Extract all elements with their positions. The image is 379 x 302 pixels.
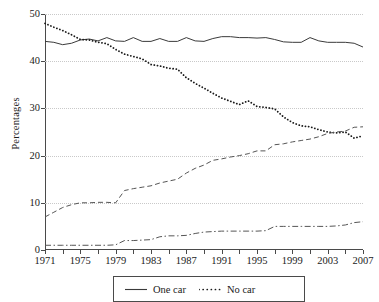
x-tick-mark	[275, 250, 276, 254]
x-tick-mark	[98, 250, 99, 254]
x-tick-label: 2007	[353, 256, 374, 267]
y-tick-label: 20	[30, 150, 41, 161]
x-tick-mark	[169, 250, 170, 254]
y-tick-label: 30	[30, 103, 41, 114]
x-tick-mark	[63, 250, 64, 254]
legend-label-no-car: No car	[227, 284, 255, 295]
x-tick-label: 2003	[317, 256, 338, 267]
x-tick-mark	[363, 250, 364, 254]
x-tick-label: 1995	[247, 256, 268, 267]
x-tick-label: 1991	[211, 256, 232, 267]
x-tick-mark	[222, 250, 223, 254]
series-lines	[45, 14, 363, 250]
x-tick-mark	[186, 250, 187, 254]
series-line-one-car	[45, 37, 363, 47]
legend-label-one-car: One car	[153, 284, 186, 295]
x-tick-label: 1987	[176, 256, 197, 267]
series-line-three-or-more-cars	[45, 222, 363, 246]
legend-swatch-solid-icon	[125, 285, 147, 294]
x-tick-label: 1979	[105, 256, 126, 267]
x-tick-mark	[257, 250, 258, 254]
x-tick-label: 1983	[141, 256, 162, 267]
y-tick-label: 10	[30, 198, 41, 209]
y-tick-label: 40	[30, 56, 41, 67]
y-axis-label: Percentages	[10, 79, 21, 169]
y-tick-label: 50	[30, 9, 41, 20]
x-tick-mark	[116, 250, 117, 254]
chart-legend: One car No car	[113, 276, 305, 302]
legend-item-no-car: No car	[199, 284, 255, 295]
x-tick-label: 1999	[282, 256, 303, 267]
x-tick-label: 1971	[35, 256, 56, 267]
series-line-two-cars	[45, 127, 363, 217]
legend-item-one-car: One car	[125, 284, 186, 295]
x-tick-mark	[345, 250, 346, 254]
x-tick-mark	[292, 250, 293, 254]
y-tick-label: 0	[35, 245, 40, 256]
x-tick-label: 1975	[70, 256, 91, 267]
x-tick-mark	[151, 250, 152, 254]
x-tick-mark	[310, 250, 311, 254]
x-tick-mark	[133, 250, 134, 254]
x-tick-mark	[328, 250, 329, 254]
x-tick-mark	[80, 250, 81, 254]
x-tick-mark	[204, 250, 205, 254]
x-tick-mark	[239, 250, 240, 254]
plot-area: 01020304050 1971197519791983198719911995…	[45, 14, 363, 250]
series-line-no-car	[45, 23, 363, 138]
x-tick-mark	[45, 250, 46, 254]
legend-swatch-dotted-icon	[199, 285, 221, 294]
